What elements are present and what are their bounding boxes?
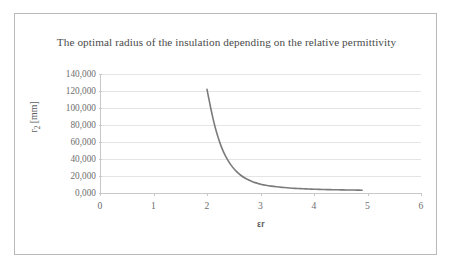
y-tick-mark — [99, 108, 102, 109]
x-tick-mark — [207, 193, 208, 196]
x-tick-label: 3 — [248, 200, 274, 211]
x-tick-label: 5 — [355, 200, 381, 211]
y-tick-label: 140,000 — [36, 69, 96, 79]
x-axis-title: εr — [100, 219, 422, 229]
data-series-line — [207, 89, 362, 190]
x-tick-mark — [100, 193, 101, 196]
chart-figure: The optimal radius of the insulation dep… — [14, 13, 437, 255]
y-axis-tick-labels: 0,00020,00040,00060,00080,000100,000120,… — [33, 74, 96, 193]
y-axis-title-unit: [mm] — [28, 101, 39, 125]
x-tick-label: 2 — [194, 200, 220, 211]
y-tick-label: 40,000 — [36, 154, 96, 164]
x-tick-label: 0 — [87, 200, 113, 211]
y-tick-label: 0,000 — [36, 188, 96, 198]
y-tick-label: 80,000 — [36, 120, 96, 130]
x-axis-tick-labels: 0123456 — [100, 200, 422, 214]
y-tick-mark — [99, 159, 102, 160]
y-axis-title-base: r — [28, 129, 39, 132]
y-tick-mark — [99, 176, 102, 177]
x-tick-label: 4 — [301, 200, 327, 211]
y-axis-title: r2 [mm] — [28, 87, 42, 147]
x-tick-mark — [154, 193, 155, 196]
y-axis-title-subscript: 2 — [33, 126, 42, 130]
y-tick-mark — [99, 74, 102, 75]
curve-svg — [100, 74, 421, 193]
x-tick-mark — [314, 193, 315, 196]
x-tick-mark — [261, 193, 262, 196]
plot-area — [100, 74, 421, 193]
y-tick-mark — [99, 142, 102, 143]
y-tick-mark — [99, 91, 102, 92]
y-tick-mark — [99, 125, 102, 126]
chart-title: The optimal radius of the insulation dep… — [15, 36, 438, 48]
x-tick-label: 1 — [141, 200, 167, 211]
y-tick-label: 120,000 — [36, 86, 96, 96]
x-tick-label: 6 — [408, 200, 434, 211]
x-tick-mark — [368, 193, 369, 196]
y-tick-label: 20,000 — [36, 171, 96, 181]
y-tick-label: 60,000 — [36, 137, 96, 147]
x-tick-mark — [421, 193, 422, 196]
y-tick-label: 100,000 — [36, 103, 96, 113]
